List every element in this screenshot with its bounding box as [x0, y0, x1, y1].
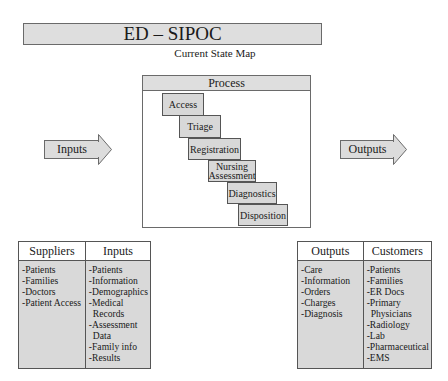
list-item: Physicians	[367, 308, 429, 319]
suppliers-column: Suppliers -Patients -Families -Doctors -…	[19, 242, 85, 368]
list-item: -Information	[89, 275, 148, 286]
process-box: Process Access Triage Registration Nursi…	[142, 75, 311, 228]
step-label: Registration	[190, 145, 239, 154]
inputs-arrow-body: Inputs	[44, 140, 99, 159]
list-item: -Care	[301, 264, 361, 275]
process-header: Process	[143, 76, 310, 91]
list-item: -Results	[89, 352, 148, 363]
list-item: -Radiology	[367, 319, 429, 330]
list-item: -EMS	[367, 352, 429, 363]
customers-column: Customers -Patients -Families -ER Docs -…	[363, 242, 431, 368]
list-item: -Families	[367, 275, 429, 286]
list-item: -Medical	[89, 297, 148, 308]
step-label: Triage	[187, 122, 213, 131]
list-item: -Family info	[89, 341, 148, 352]
list-item: -Patients	[367, 264, 429, 275]
list-item: -Charges	[301, 297, 361, 308]
step-label: Assessment	[208, 171, 255, 180]
page-title: ED – SIPOC	[123, 23, 221, 45]
step-triage: Triage	[179, 115, 221, 138]
outputs-arrow-label: Outputs	[348, 142, 386, 157]
outputs-list: -Care -Information -Orders -Charges -Dia…	[298, 261, 363, 368]
list-item: -Patients	[89, 264, 148, 275]
outputs-arrow-body: Outputs	[340, 140, 394, 159]
list-item: -Information	[301, 275, 361, 286]
inputs-column: Inputs -Patients -Information -Demograph…	[85, 242, 150, 368]
list-item: Data	[89, 330, 148, 341]
step-label: Diagnostics	[228, 189, 275, 198]
step-label: Access	[169, 100, 197, 109]
step-disposition: Disposition	[238, 204, 288, 226]
step-registration: Registration	[188, 138, 241, 160]
list-item: -Pharmaceutical	[367, 341, 429, 352]
suppliers-header: Suppliers	[19, 242, 85, 261]
title-bar: ED – SIPOC	[23, 23, 322, 45]
step-diagnostics: Diagnostics	[227, 182, 277, 204]
suppliers-inputs-table: Suppliers -Patients -Families -Doctors -…	[18, 241, 151, 369]
list-item: -Lab	[367, 330, 429, 341]
arrow-head-icon	[98, 134, 112, 165]
list-item: -ER Docs	[367, 286, 429, 297]
list-item: -Families	[22, 275, 83, 286]
step-label: Disposition	[240, 211, 286, 220]
list-item: -Doctors	[22, 286, 83, 297]
arrow-head-icon	[393, 134, 407, 165]
step-nursing-assessment: Nursing Assessment	[208, 160, 256, 182]
list-item: -Assessment	[89, 319, 148, 330]
outputs-header: Outputs	[298, 242, 363, 261]
list-item: -Primary	[367, 297, 429, 308]
list-item: -Diagnosis	[301, 308, 361, 319]
list-item: -Orders	[301, 286, 361, 297]
customers-header: Customers	[364, 242, 431, 261]
outputs-customers-table: Outputs -Care -Information -Orders -Char…	[297, 241, 432, 369]
outputs-arrow: Outputs	[340, 134, 407, 165]
subtitle: Current State Map	[160, 47, 270, 59]
inputs-header: Inputs	[86, 242, 150, 261]
inputs-arrow-label: Inputs	[57, 142, 87, 157]
list-item: -Demographics	[89, 286, 148, 297]
list-item: -Patient Access	[22, 297, 83, 308]
step-access: Access	[162, 93, 204, 116]
list-item: -Patients	[22, 264, 83, 275]
inputs-list: -Patients -Information -Demographics -Me…	[86, 261, 150, 368]
customers-list: -Patients -Families -ER Docs -Primary Ph…	[364, 261, 431, 368]
inputs-arrow: Inputs	[44, 134, 112, 165]
suppliers-list: -Patients -Families -Doctors -Patient Ac…	[19, 261, 85, 368]
outputs-column: Outputs -Care -Information -Orders -Char…	[298, 242, 363, 368]
list-item: Records	[89, 308, 148, 319]
